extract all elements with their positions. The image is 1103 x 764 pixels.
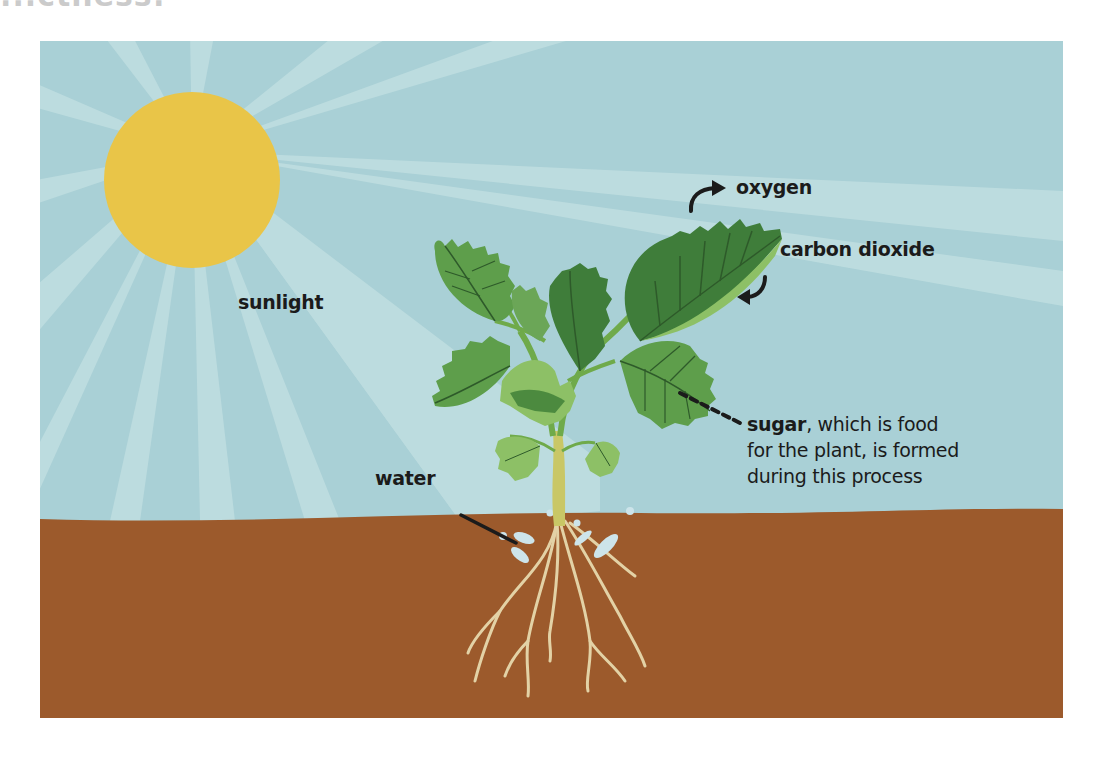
label-sugar-line3: during this process [747,465,922,487]
label-oxygen: oxygen [736,176,812,198]
label-sugar-line2: for the plant, is formed [747,439,959,461]
label-water: water [375,467,435,489]
label-sugar-bold: sugar [747,413,806,435]
photosynthesis-diagram: sunlight oxygen carbon dioxide water sug… [40,41,1063,718]
label-sugar: sugar, which is food for the plant, is f… [747,411,1047,489]
label-sunlight: sunlight [238,291,323,313]
cropped-heading: ...ctness: [0,0,166,13]
label-sugar-line1: , which is food [806,413,938,435]
sun-icon [104,92,280,268]
label-carbon-dioxide: carbon dioxide [780,238,934,260]
diagram-illustration [40,41,1063,718]
